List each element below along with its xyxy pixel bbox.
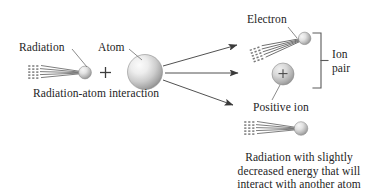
label-ion-pair: Ion pair: [332, 48, 350, 75]
label-radiation-atom-interaction: Radiation-atom interaction: [33, 87, 159, 101]
electron-symbol: [250, 30, 313, 63]
label-ion-pair-line-2: pair: [332, 62, 350, 76]
positive-ion-leader-line: [272, 85, 280, 100]
arrow-to-scattered-radiation: [163, 80, 233, 105]
incoming-radiation-beam: [28, 66, 91, 79]
ion-pair-bracket: [313, 33, 328, 88]
plus-operator-glyph: [100, 67, 111, 78]
label-atom: Atom: [98, 41, 125, 55]
figure-canvas: Radiation Atom Radiation-atom interactio…: [0, 0, 374, 194]
atom-sphere: [128, 55, 163, 90]
label-electron: Electron: [247, 13, 287, 27]
label-positive-ion: Positive ion: [253, 101, 309, 115]
arrow-to-electron: [163, 45, 237, 66]
label-radiation: Radiation: [19, 41, 65, 55]
caption-line-1: Radiation with slightly: [224, 151, 374, 165]
electron-leader-line: [288, 27, 297, 38]
radiation-leader-line: [72, 49, 87, 67]
scattered-radiation-beam: [244, 122, 308, 136]
caption-line-3: interact with another atom: [224, 178, 374, 192]
label-scattered-radiation-caption: Radiation with slightly decreased energy…: [224, 151, 374, 192]
positive-ion-sphere: [272, 63, 294, 85]
caption-line-2: decreased energy that will: [224, 165, 374, 179]
label-ion-pair-line-1: Ion: [332, 48, 350, 62]
